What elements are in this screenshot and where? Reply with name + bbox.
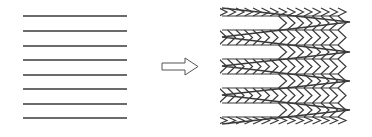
- chevron: [330, 117, 338, 124]
- chevron: [330, 88, 338, 103]
- chevron: [321, 117, 329, 124]
- chevron: [338, 30, 346, 45]
- chevron: [321, 8, 329, 16]
- chevron: [330, 8, 338, 16]
- chevron: [236, 30, 244, 45]
- chevron: [287, 117, 295, 124]
- chevron: [279, 74, 287, 88]
- chevron: [338, 59, 346, 74]
- chevron: [321, 74, 329, 88]
- chevron: [304, 88, 312, 103]
- chevron: [245, 88, 253, 103]
- chevron: [330, 30, 338, 45]
- chevron: [330, 45, 338, 59]
- chevron: [304, 30, 312, 45]
- chevron: [262, 117, 270, 124]
- chevron: [287, 45, 295, 59]
- zigzag-chevron-figure: [219, 8, 350, 124]
- chevron: [304, 59, 312, 74]
- chevron: [296, 8, 304, 16]
- chevron: [287, 59, 295, 74]
- chevron: [245, 59, 253, 74]
- chevron: [304, 117, 312, 124]
- chevron: [287, 103, 295, 117]
- right-arrow-icon: [162, 58, 198, 75]
- chevron: [313, 30, 321, 45]
- chevron: [321, 30, 329, 45]
- chevron: [245, 30, 253, 45]
- chevron: [313, 117, 321, 124]
- chevron: [338, 88, 346, 103]
- chevron: [236, 88, 244, 103]
- chevron: [287, 88, 295, 103]
- chevron: [321, 103, 329, 117]
- chevron: [321, 59, 329, 74]
- chevron: [287, 74, 295, 88]
- chevron: [313, 88, 321, 103]
- chevron: [279, 103, 287, 117]
- chevron: [296, 30, 304, 45]
- chevron: [338, 117, 346, 124]
- chevron: [321, 88, 329, 103]
- chevron: [279, 16, 287, 30]
- chevron: [330, 74, 338, 88]
- chevron: [313, 59, 321, 74]
- chevron: [245, 8, 253, 16]
- transformation-diagram: [0, 0, 372, 137]
- chevron: [279, 30, 287, 45]
- chevron: [313, 8, 321, 16]
- chevron: [287, 30, 295, 45]
- chevron: [236, 59, 244, 74]
- chevron: [279, 88, 287, 103]
- chevron: [287, 16, 295, 30]
- chevron: [279, 59, 287, 74]
- arrow-outline: [162, 58, 198, 75]
- chevron-group: [219, 8, 346, 124]
- chevron: [321, 45, 329, 59]
- chevron: [296, 88, 304, 103]
- chevron: [279, 45, 287, 59]
- chevron: [330, 59, 338, 74]
- chevron: [296, 117, 304, 124]
- chevron: [321, 16, 329, 30]
- chevron: [330, 103, 338, 117]
- chevron: [338, 8, 346, 16]
- parallel-lines-figure: [23, 16, 127, 118]
- chevron: [304, 8, 312, 16]
- chevron: [296, 59, 304, 74]
- chevron: [270, 8, 278, 16]
- chevron: [219, 8, 227, 16]
